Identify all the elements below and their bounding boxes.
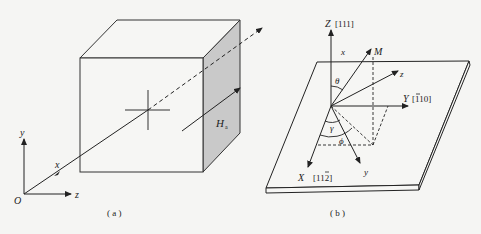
caption-a: ( a ) (107, 208, 122, 218)
gamma-label: γ (330, 123, 334, 133)
cube-diagram: H a y z x O ( a ) (14, 20, 262, 218)
X-axis-letter: X (297, 172, 305, 183)
diagram-svg: H a y z x O ( a ) Z [111] M x z Y [110] (0, 0, 481, 234)
phi-label: ϕ (339, 136, 344, 146)
Z-axis-letter: Z (325, 18, 331, 29)
plate-diagram: Z [111] M x z Y [110] X [112] y θ (266, 18, 470, 218)
theta-label: θ (335, 76, 340, 86)
origin-label: O (14, 195, 21, 206)
caption-b: ( b ) (330, 208, 345, 218)
Z-axis-index: [111] (335, 19, 354, 29)
field-label: H (215, 117, 225, 129)
field-subscript: a (225, 124, 228, 130)
z-axis-label: z (74, 189, 79, 200)
z-label: z (399, 69, 404, 79)
x-axis-label: x (54, 159, 60, 170)
M-label: M (373, 46, 383, 57)
figure-canvas: H a y z x O ( a ) Z [111] M x z Y [110] (0, 0, 481, 234)
X-axis-index: [112] (313, 173, 332, 183)
y-label: y (363, 167, 368, 177)
y-axis-label: y (19, 127, 25, 138)
Y-axis-index: [110] (412, 94, 431, 104)
x-label: x (340, 47, 345, 57)
